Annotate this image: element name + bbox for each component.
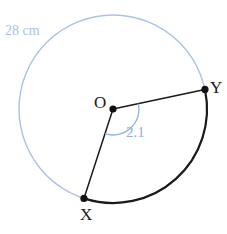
geometry-figure: O X Y 2.1 28 cm xyxy=(0,0,227,234)
label-center-o: O xyxy=(94,94,106,111)
point-x-dot-icon xyxy=(80,195,87,202)
radius-line-oy xyxy=(113,89,205,109)
label-angle-measure: 2.1 xyxy=(126,125,145,140)
point-y-dot-icon xyxy=(201,86,208,93)
label-circumference: 28 cm xyxy=(5,24,40,38)
label-point-x: X xyxy=(80,206,92,223)
radius-line-ox xyxy=(84,109,113,198)
label-point-y: Y xyxy=(210,79,222,96)
center-dot-icon xyxy=(109,105,116,112)
